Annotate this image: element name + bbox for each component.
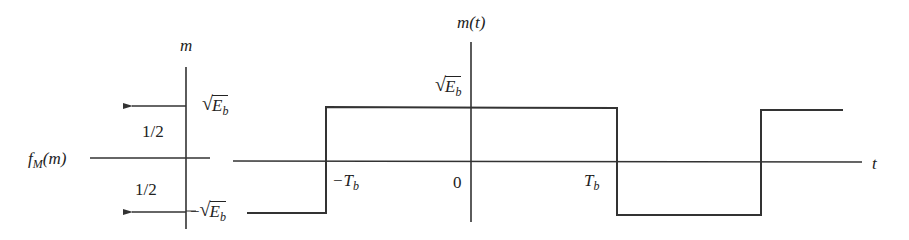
pmf-lower-level-label: −√Eb	[190, 201, 226, 220]
signal-level-label: √Eb	[435, 76, 461, 95]
tick-label-zero: 0	[453, 174, 462, 191]
pmf-lower-probability: 1/2	[135, 181, 157, 198]
sqrt-icon: √	[435, 74, 446, 94]
time-axis	[233, 161, 862, 162]
pmf-vertical-axis-label: m	[180, 37, 192, 54]
pmf-upper-level-label: √Eb	[202, 95, 228, 114]
pmf-horizontal-axis-label: fM(m)	[28, 150, 66, 167]
pmf-function-argument: (m)	[43, 149, 67, 168]
figure-canvas	[0, 0, 909, 240]
pmf-upper-probability: 1/2	[142, 123, 164, 140]
sqrt-icon: √	[202, 93, 213, 113]
signal-vertical-axis-label: m(t)	[457, 14, 485, 31]
tick-label-neg-tb: −Tb	[332, 172, 359, 189]
tick-label-pos-tb: Tb	[584, 172, 599, 189]
pmf-function-subscript: M	[33, 157, 43, 171]
sqrt-icon: √	[200, 199, 211, 219]
signal-time-axis-label: t	[872, 155, 877, 172]
